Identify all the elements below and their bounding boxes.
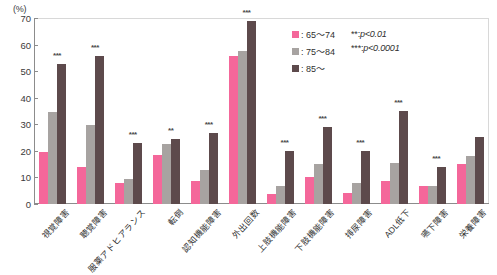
y-axis-tick-label: 20 bbox=[20, 145, 31, 156]
legend-item: : 65〜74 bbox=[292, 28, 335, 41]
legend: : 65〜74 : 75〜84 : 85〜 **:p<0.01 ***:p<0.… bbox=[292, 28, 399, 75]
legend-item: : 85〜 bbox=[292, 62, 335, 75]
y-axis-tick-label: 30 bbox=[20, 119, 31, 130]
y-axis-tick-label: 60 bbox=[20, 39, 31, 50]
y-axis-tick-label: 70 bbox=[20, 13, 31, 24]
bar bbox=[466, 156, 475, 204]
bar bbox=[276, 186, 285, 204]
bar bbox=[86, 125, 95, 204]
bar-group bbox=[457, 18, 484, 204]
bar bbox=[39, 152, 48, 204]
bar bbox=[390, 163, 399, 204]
significance-marker: ***: bbox=[351, 43, 363, 53]
bar bbox=[229, 56, 238, 204]
significance-marker: *** bbox=[318, 115, 326, 123]
bar-group: *** bbox=[267, 18, 294, 204]
bar bbox=[323, 127, 332, 204]
x-axis-category-label: 転倒 bbox=[165, 206, 186, 227]
y-axis-tick-mark bbox=[34, 98, 38, 99]
significance-marker: *** bbox=[356, 139, 364, 147]
bar bbox=[437, 167, 446, 204]
x-axis-category-label: 聴覚障害 bbox=[77, 206, 110, 241]
bar bbox=[209, 133, 218, 204]
y-axis-tick-labels: 010203040506070 bbox=[0, 0, 31, 275]
bar bbox=[124, 179, 133, 205]
y-axis-tick-mark bbox=[34, 71, 38, 72]
y-axis-tick-label: 0 bbox=[26, 199, 31, 210]
y-axis-tick-label: 50 bbox=[20, 66, 31, 77]
bar bbox=[343, 193, 352, 204]
significance-marker: *** bbox=[243, 9, 251, 17]
bar bbox=[171, 139, 180, 204]
bar bbox=[428, 186, 437, 204]
y-axis-tick-mark bbox=[34, 124, 38, 125]
bar bbox=[48, 112, 57, 204]
bars-layer: ******************************** bbox=[34, 18, 489, 204]
bar-group: *** bbox=[419, 18, 446, 204]
legend-swatch-icon bbox=[292, 65, 299, 72]
significance-p-value: p<0.0001 bbox=[363, 43, 399, 53]
bar bbox=[381, 181, 390, 204]
significance-marker: *** bbox=[281, 139, 289, 147]
x-axis-category-label: 視覚障害 bbox=[39, 206, 72, 241]
significance-marker: *** bbox=[91, 44, 99, 52]
significance-notes: **:p<0.01 ***:p<0.0001 bbox=[351, 28, 399, 53]
bar bbox=[133, 143, 142, 204]
significance-marker: *** bbox=[129, 131, 137, 139]
x-axis-category-label: 嚥下障害 bbox=[418, 206, 451, 241]
y-axis-tick-mark bbox=[34, 204, 38, 205]
x-axis-category-label: 排尿障害 bbox=[342, 206, 375, 241]
x-axis-category-labels: 視覚障害聴覚障害服薬アドヒアランス転倒認知機能障害外出回数上肢機能障害下肢機能障… bbox=[34, 204, 489, 275]
significance-marker: **: bbox=[351, 29, 360, 39]
y-axis-tick-label: 40 bbox=[20, 92, 31, 103]
bar bbox=[200, 170, 209, 204]
bar bbox=[399, 111, 408, 204]
y-axis-tick-label: 10 bbox=[20, 172, 31, 183]
y-axis-tick-mark bbox=[34, 177, 38, 178]
significance-note: **:p<0.01 bbox=[351, 29, 399, 39]
bar bbox=[95, 56, 104, 204]
y-axis-tick-mark bbox=[34, 18, 38, 19]
x-axis-category-label: 栄養障害 bbox=[456, 206, 489, 241]
bar bbox=[162, 144, 171, 204]
bar bbox=[57, 64, 66, 204]
legend-item-label: : 85〜 bbox=[301, 62, 325, 75]
bar bbox=[238, 51, 247, 204]
bar-group: *** bbox=[229, 18, 256, 204]
bar-group: *** bbox=[191, 18, 218, 204]
bar bbox=[419, 186, 428, 204]
significance-marker: *** bbox=[394, 99, 402, 107]
bar-group: *** bbox=[115, 18, 142, 204]
significance-marker: ** bbox=[168, 127, 173, 135]
bar bbox=[457, 164, 466, 204]
x-axis-category-label: 外出回数 bbox=[228, 206, 261, 241]
legend-item-label: : 75〜84 bbox=[301, 45, 335, 58]
bar bbox=[314, 164, 323, 204]
bar bbox=[191, 181, 200, 204]
legend-series-list: : 65〜74 : 75〜84 : 85〜 bbox=[292, 28, 335, 75]
bar bbox=[153, 155, 162, 204]
bar bbox=[267, 194, 276, 204]
bar-chart-figure: (%) 010203040506070 ********************… bbox=[0, 0, 497, 275]
bar bbox=[352, 183, 361, 204]
bar bbox=[77, 167, 86, 204]
bar bbox=[475, 137, 484, 204]
bar bbox=[285, 151, 294, 204]
significance-marker: *** bbox=[53, 52, 61, 60]
significance-p-value: p<0.01 bbox=[360, 29, 387, 39]
bar-group: *** bbox=[39, 18, 66, 204]
bar bbox=[115, 183, 124, 204]
legend-swatch-icon bbox=[292, 48, 299, 55]
bar bbox=[247, 21, 256, 204]
y-axis-tick-mark bbox=[34, 151, 38, 152]
significance-marker: *** bbox=[205, 121, 213, 129]
bar-group: *** bbox=[77, 18, 104, 204]
bar-group: ** bbox=[153, 18, 180, 204]
bar bbox=[361, 151, 370, 204]
legend-item: : 75〜84 bbox=[292, 45, 335, 58]
legend-swatch-icon bbox=[292, 31, 299, 38]
significance-marker: *** bbox=[432, 155, 440, 163]
legend-item-label: : 65〜74 bbox=[301, 28, 335, 41]
bar bbox=[305, 177, 314, 204]
significance-note: ***:p<0.0001 bbox=[351, 43, 399, 53]
